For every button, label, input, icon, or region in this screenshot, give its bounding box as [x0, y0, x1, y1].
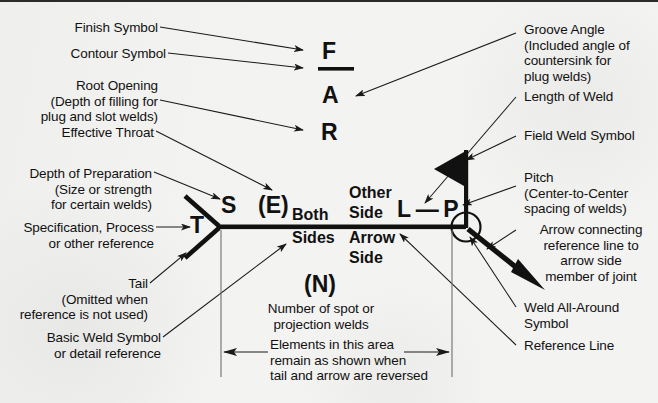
- label-root-opening: Root Opening (Depth of filling for plug …: [0, 78, 158, 125]
- label-groove-angle: Groove Angle (Included angle of counters…: [524, 22, 658, 84]
- leader-pitch: [463, 186, 516, 205]
- welding-symbol-diagram: Finish Symbol Contour Symbol Root Openin…: [0, 0, 658, 403]
- label-contour-symbol: Contour Symbol: [0, 46, 166, 62]
- symbol-depth-of-preparation: S: [221, 192, 236, 219]
- label-basic-weld-symbol: Basic Weld Symbol or detail reference: [0, 330, 161, 361]
- leader-reference-line: [400, 234, 516, 345]
- label-length-of-weld: Length of Weld: [524, 89, 658, 105]
- symbol-groove-angle: A: [322, 82, 339, 109]
- label-arrow-connecting: Arrow connecting reference line to arrow…: [524, 222, 658, 284]
- leader-depth-of-preparation: [154, 172, 220, 199]
- leader-finish-symbol: [160, 27, 303, 50]
- note-number-of-welds: Number of spot or projection welds: [236, 301, 406, 332]
- text-arrow-side-line1: Arrow: [349, 229, 395, 246]
- label-specification-process: Specification, Process or other referenc…: [0, 220, 154, 251]
- symbol-number-of-welds: (N): [304, 271, 336, 298]
- text-both-sides-line2: Sides: [292, 229, 335, 246]
- symbol-length-pitch: L — P: [397, 196, 459, 223]
- leader-groove-angle: [356, 33, 516, 96]
- label-effective-throat: Effective Throat: [0, 125, 154, 141]
- reference-line-stroke: [218, 225, 466, 230]
- label-depth-of-preparation: Depth of Preparation (Size or strength f…: [0, 166, 152, 213]
- text-other-side-line2: Side: [349, 204, 383, 221]
- symbol-specification: T: [190, 212, 204, 239]
- symbol-root-opening: R: [321, 119, 338, 146]
- leader-contour-symbol: [168, 53, 303, 68]
- leader-arrow-connecting: [487, 230, 516, 249]
- top-border-rule: [0, 0, 658, 2]
- leader-tail: [150, 253, 186, 283]
- leader-root-opening: [160, 100, 303, 130]
- text-other-side-line1: Other: [349, 184, 392, 201]
- label-field-weld-symbol: Field Weld Symbol: [524, 128, 658, 144]
- text-arrow-side-line2: Side: [349, 249, 383, 266]
- contour-symbol-bar: [318, 67, 354, 71]
- leader-effective-throat: [156, 131, 272, 190]
- label-weld-all-around: Weld All-Around Symbol: [524, 300, 658, 331]
- label-pitch: Pitch (Center-to-Center spacing of welds…: [524, 170, 658, 217]
- symbol-finish: F: [322, 38, 336, 65]
- field-weld-pole: [464, 150, 468, 228]
- label-reference-line: Reference Line: [524, 338, 658, 354]
- leader-length-of-weld: [425, 97, 516, 203]
- leader-field-weld-symbol: [466, 136, 516, 160]
- label-finish-symbol: Finish Symbol: [0, 20, 158, 36]
- text-both-sides-line1: Both: [292, 206, 328, 223]
- field-weld-flag: [434, 152, 464, 186]
- label-tail: Tail (Omitted when reference is not used…: [0, 276, 148, 323]
- leader-weld-all-around: [470, 237, 516, 307]
- symbol-effective-throat: (E): [258, 192, 289, 219]
- note-reversed-elements: Elements in this area remain as shown wh…: [270, 337, 460, 384]
